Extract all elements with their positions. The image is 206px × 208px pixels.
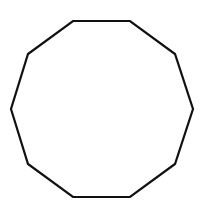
diagram-canvas: [0, 0, 206, 208]
decagon-shape: [11, 21, 193, 197]
